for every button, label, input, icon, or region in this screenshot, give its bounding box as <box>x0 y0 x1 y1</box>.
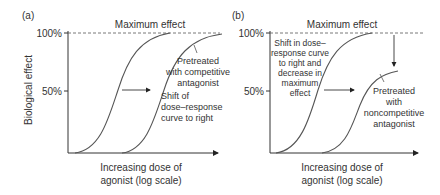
panel-b-tag: (b) <box>232 10 244 21</box>
panel-a-curve-pointer <box>194 45 197 53</box>
panel-b-curve-label-4: antagonist <box>373 119 415 129</box>
panel-b-ytick-50: 50% <box>244 86 264 97</box>
panel-b-shift-label-4: decrease in <box>278 68 322 78</box>
panel-a-x-label-1: Increasing dose of <box>100 162 182 173</box>
panel-b-shift-label-3: to right and <box>279 58 322 68</box>
panel-b-x-label-2: agonist (log scale) <box>301 175 382 186</box>
panel-b: (b) Maximum effect 100% 50% Shift in dos… <box>232 10 424 186</box>
panel-b-shift-label-2: response curve <box>271 48 329 58</box>
panel-a-agonist-curve <box>75 33 170 153</box>
panel-a: (a) Maximum effect 100% 50% Biological e… <box>22 10 230 186</box>
panel-a-shift-label-3: curve to right <box>161 113 214 123</box>
panel-b-max-effect-label: Maximum effect <box>307 19 378 30</box>
panel-b-shift-label-5: maximum <box>282 78 319 88</box>
panel-a-y-label: Biological effect <box>23 55 34 125</box>
panel-a-ytick-100: 100% <box>36 28 62 39</box>
panel-b-curve-label-1: Pretreated <box>373 86 415 96</box>
panel-a-x-label-2: agonist (log scale) <box>100 175 181 186</box>
panel-b-shift-label-6: effect <box>290 88 311 98</box>
panel-a-shift-label-1: Shift of <box>161 91 190 101</box>
panel-a-curve-label-1: Pretreated <box>177 56 219 66</box>
panel-a-ytick-50: 50% <box>42 86 62 97</box>
panel-a-max-effect-label: Maximum effect <box>115 19 186 30</box>
panel-b-x-label-1: Increasing dose of <box>301 162 383 173</box>
panel-a-tag: (a) <box>22 10 34 21</box>
panel-a-curve-label-3: antagonist <box>177 78 219 88</box>
panel-a-shift-label-2: dose–response <box>161 102 223 112</box>
figure: (a) Maximum effect 100% 50% Biological e… <box>0 0 440 195</box>
panel-b-curve-label-2: with <box>385 97 402 107</box>
panel-b-ytick-100: 100% <box>238 28 264 39</box>
panel-a-curve-label-2: with competitive <box>165 67 230 77</box>
panel-b-shift-label-1: Shift in dose– <box>274 38 326 48</box>
panel-b-curve-label-3: noncompetitive <box>364 108 425 118</box>
